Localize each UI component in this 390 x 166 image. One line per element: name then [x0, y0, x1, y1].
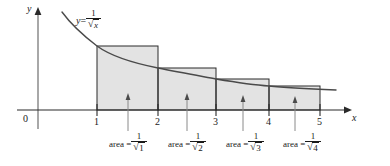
area-denominator-2: √ 2: [190, 141, 206, 154]
x-axis-label: x: [352, 113, 356, 123]
area-denominator-4: √ 4: [305, 141, 321, 154]
area-label-2: area = 1 √ 2: [168, 133, 206, 156]
x-tick-label-2: 2: [155, 117, 160, 127]
radical-icon: √: [250, 141, 256, 153]
area-radical-1: √ 1: [133, 142, 145, 154]
curve-equation-label: y= 1 √ x: [76, 10, 101, 33]
area-word-4: area: [283, 139, 298, 149]
x-tick-label-5: 5: [317, 117, 322, 127]
area-radicand-4: 4: [312, 142, 319, 154]
radical-icon: √: [307, 141, 313, 153]
x-tick-label-1: 1: [94, 117, 99, 127]
y-axis: [35, 7, 42, 129]
y-axis-arrowhead: [35, 7, 42, 15]
x-tick-label-3: 3: [213, 117, 218, 127]
radical-icon: √: [88, 18, 94, 30]
radical-icon: √: [133, 141, 139, 153]
curve-radical: √ x: [88, 19, 99, 31]
x-tick-label-4: 4: [266, 117, 271, 127]
area-word-1: area: [109, 139, 124, 149]
area-label-3: area = 1 √ 3: [226, 133, 264, 156]
area-label-4: area = 1 √ 4: [283, 133, 321, 156]
area-numerator-3: 1: [248, 132, 264, 141]
area-radicand-1: 1: [138, 142, 145, 154]
area-radical-2: √ 2: [192, 142, 204, 154]
curve-label-fraction: 1 √ x: [86, 9, 101, 32]
area-fraction-2: 1 √ 2: [190, 132, 206, 155]
area-radicand-2: 2: [197, 142, 204, 154]
area-label-1: area = 1 √ 1: [109, 133, 147, 156]
curve-denominator: √ x: [86, 18, 101, 31]
area-numerator-1: 1: [131, 132, 147, 141]
area-denominator-3: √ 3: [248, 141, 264, 154]
area-radical-3: √ 3: [250, 142, 262, 154]
area-word-3: area: [226, 139, 241, 149]
radical-icon: √: [192, 141, 198, 153]
origin-label: 0: [23, 114, 28, 124]
area-fraction-4: 1 √ 4: [305, 132, 321, 155]
area-word-2: area: [168, 139, 183, 149]
area-denominator-1: √ 1: [131, 141, 147, 154]
y-axis-label: y: [27, 4, 31, 14]
curve-numerator: 1: [86, 9, 101, 18]
math-figure: y x 0 1 2 3 4 5 y= 1 √ x area = 1 √ 1: [0, 0, 390, 166]
area-numerator-2: 1: [190, 132, 206, 141]
x-axis-arrowhead: [344, 107, 352, 114]
area-numerator-4: 1: [305, 132, 321, 141]
area-radicand-3: 3: [255, 142, 262, 154]
area-radical-4: √ 4: [307, 142, 319, 154]
area-fraction-1: 1 √ 1: [131, 132, 147, 155]
area-fraction-3: 1 √ 3: [248, 132, 264, 155]
